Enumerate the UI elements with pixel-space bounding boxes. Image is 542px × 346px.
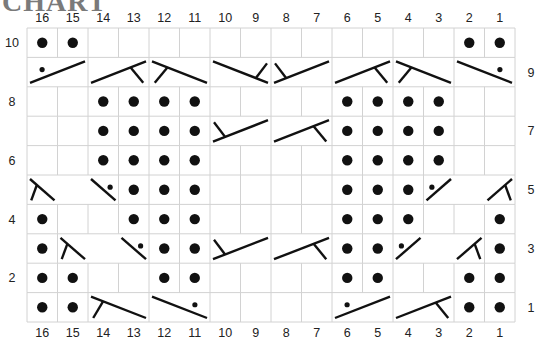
purl-dot bbox=[434, 126, 444, 136]
row-label-left: 2 bbox=[9, 271, 16, 285]
column-label-bottom: 7 bbox=[313, 326, 320, 340]
small-purl-dot bbox=[497, 67, 502, 72]
purl-dot bbox=[190, 126, 200, 136]
column-label-top: 15 bbox=[66, 11, 80, 25]
column-label-top: 5 bbox=[374, 11, 381, 25]
cable-line-rising bbox=[91, 61, 146, 82]
small-purl-dot bbox=[40, 67, 45, 72]
purl-dot bbox=[159, 185, 169, 195]
purl-dot bbox=[129, 185, 139, 195]
cable-line-rising bbox=[396, 297, 451, 318]
purl-dot bbox=[434, 155, 444, 165]
purl-dot bbox=[129, 96, 139, 106]
column-label-bottom: 2 bbox=[466, 326, 473, 340]
row-label-left: 4 bbox=[9, 213, 16, 227]
purl-dot bbox=[342, 273, 352, 283]
cable-line-rising bbox=[335, 297, 390, 318]
cable-tick bbox=[314, 126, 327, 141]
column-label-top: 2 bbox=[466, 11, 473, 25]
cable-line-rising bbox=[335, 61, 390, 82]
small-purl-dot bbox=[399, 243, 404, 248]
cable-tick bbox=[256, 63, 267, 78]
cable-line-falling bbox=[91, 179, 116, 200]
cable-tick bbox=[275, 63, 286, 78]
purl-dot bbox=[495, 302, 505, 312]
purl-dot bbox=[37, 214, 47, 224]
purl-dot bbox=[342, 185, 352, 195]
purl-dot bbox=[129, 126, 139, 136]
row-label-left: 6 bbox=[9, 154, 16, 168]
cable-tick bbox=[399, 67, 412, 82]
cable-tick bbox=[62, 244, 68, 259]
purl-dot bbox=[403, 185, 413, 195]
purl-dot bbox=[373, 185, 383, 195]
small-purl-dot bbox=[429, 185, 434, 190]
purl-dot bbox=[373, 214, 383, 224]
purl-dot bbox=[129, 214, 139, 224]
column-label-top: 3 bbox=[435, 11, 442, 25]
purl-dot bbox=[342, 96, 352, 106]
cable-tick bbox=[93, 301, 103, 318]
cable-tick bbox=[475, 244, 481, 259]
purl-dot bbox=[464, 38, 474, 48]
cable-line-rising bbox=[396, 238, 421, 259]
row-label-right: 5 bbox=[528, 183, 535, 197]
purl-dot bbox=[495, 273, 505, 283]
column-label-bottom: 16 bbox=[35, 326, 49, 340]
purl-dot bbox=[403, 214, 413, 224]
purl-dot bbox=[159, 214, 169, 224]
purl-dot bbox=[464, 273, 474, 283]
purl-dot bbox=[495, 214, 505, 224]
row-label-left: 8 bbox=[9, 95, 16, 109]
cable-tick bbox=[214, 240, 225, 255]
column-label-top: 16 bbox=[35, 11, 49, 25]
cable-line-falling bbox=[152, 61, 207, 82]
column-label-top: 8 bbox=[283, 11, 290, 25]
cable-tick bbox=[31, 185, 37, 200]
column-label-top: 9 bbox=[252, 11, 259, 25]
column-label-bottom: 15 bbox=[66, 326, 80, 340]
column-label-bottom: 10 bbox=[218, 326, 232, 340]
purl-dot bbox=[159, 155, 169, 165]
purl-dot bbox=[464, 302, 474, 312]
column-label-bottom: 3 bbox=[435, 326, 442, 340]
small-purl-dot bbox=[345, 302, 350, 307]
purl-dot bbox=[373, 155, 383, 165]
purl-dot bbox=[434, 96, 444, 106]
purl-dot bbox=[495, 243, 505, 253]
cable-tick bbox=[214, 122, 225, 137]
purl-dot bbox=[403, 155, 413, 165]
column-label-bottom: 9 bbox=[252, 326, 259, 340]
column-label-bottom: 1 bbox=[496, 326, 503, 340]
cable-line-falling bbox=[457, 61, 512, 82]
purl-dot bbox=[159, 126, 169, 136]
purl-dot bbox=[98, 155, 108, 165]
row-label-right: 3 bbox=[528, 242, 535, 256]
column-label-top: 1 bbox=[496, 11, 503, 25]
column-label-bottom: 4 bbox=[405, 326, 412, 340]
column-label-bottom: 8 bbox=[283, 326, 290, 340]
row-label-right: 9 bbox=[528, 66, 535, 80]
column-label-top: 12 bbox=[157, 11, 171, 25]
purl-dot bbox=[190, 96, 200, 106]
cable-line-rising bbox=[427, 179, 452, 200]
purl-dot bbox=[68, 38, 78, 48]
column-label-top: 10 bbox=[218, 11, 232, 25]
column-label-bottom: 6 bbox=[344, 326, 351, 340]
purl-dot bbox=[190, 185, 200, 195]
row-label-right: 7 bbox=[528, 124, 535, 138]
purl-dot bbox=[342, 126, 352, 136]
purl-dot bbox=[190, 273, 200, 283]
cable-tick bbox=[314, 244, 327, 259]
column-label-top: 11 bbox=[188, 11, 201, 25]
small-purl-dot bbox=[192, 302, 197, 307]
cable-line-falling bbox=[152, 297, 207, 318]
cable-line-rising bbox=[30, 61, 85, 82]
row-label-left: 10 bbox=[5, 36, 19, 50]
purl-dot bbox=[68, 302, 78, 312]
knitting-chart: 1616151514141313121211111010998877665544… bbox=[0, 0, 542, 346]
purl-dot bbox=[190, 214, 200, 224]
cable-line-rising bbox=[274, 238, 329, 259]
cable-tick bbox=[436, 303, 449, 318]
purl-dot bbox=[403, 96, 413, 106]
